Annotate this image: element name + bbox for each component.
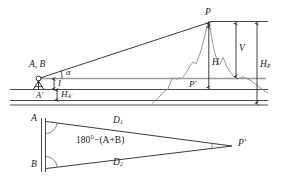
diagram-svg (0, 0, 289, 182)
label-HP-main: H (260, 59, 267, 69)
label-vertex-B: B (31, 160, 37, 170)
label-D1-sub: 1 (120, 119, 123, 125)
label-side-D2: D2 (113, 158, 123, 168)
label-HP-sub: P (267, 63, 271, 69)
label-side-D1: D1 (113, 116, 123, 126)
terrain-profile (152, 22, 268, 104)
plan-triangle (46, 122, 232, 169)
sight-line (39, 22, 213, 79)
label-target-peak: P (205, 8, 211, 18)
angle-arc-B (46, 157, 57, 168)
label-D2-main: D (113, 157, 120, 167)
angle-arc-A (46, 123, 57, 134)
label-apex-Pprime: P′ (238, 139, 246, 149)
label-peak-height-HP: HP (260, 60, 270, 70)
plan-baseline (42, 118, 46, 172)
label-peak-above-foot: H (212, 58, 219, 68)
label-D2-sub: 2 (120, 161, 123, 167)
label-station-elevation: HA′ (61, 90, 72, 100)
label-station-AB: A, B (29, 60, 45, 70)
label-D1-main: D (113, 115, 120, 125)
ground-lines (10, 90, 268, 106)
label-instrument-height: I (58, 79, 61, 88)
label-station-foot: A′ (36, 91, 43, 100)
vertical-angle-arc (61, 70, 62, 78)
label-target-foot: P′ (189, 80, 196, 89)
label-HA-sub: A′ (68, 93, 73, 99)
label-interior-angle: 180°−(A+B) (76, 136, 124, 146)
label-vertex-A: A (31, 114, 37, 124)
figure-canvas: A, B α I A′ HA′ P P′ H V HP A B P′ D1 D2… (0, 0, 289, 182)
label-vertical-angle: α (66, 68, 71, 77)
label-height-diff-V: V (239, 44, 245, 54)
